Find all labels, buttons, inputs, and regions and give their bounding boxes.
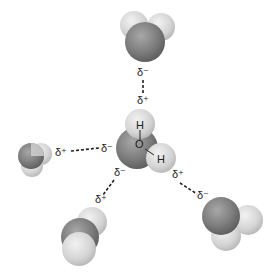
charge-label: δ⁺ bbox=[172, 168, 184, 180]
hydrogen-bond-line bbox=[180, 183, 197, 194]
atom-label-h: H bbox=[157, 153, 165, 165]
water-molecule-bottom-left bbox=[61, 207, 107, 266]
hydrogen-bond-line bbox=[71, 148, 99, 151]
charge-label: δ⁻ bbox=[137, 66, 149, 78]
hydrogen-bonding-diagram: δ⁻ δ⁺ H O H δ⁺ δ⁻ δ⁻ δ⁺ δ⁺ δ⁻ bbox=[0, 0, 274, 279]
water-molecule-bottom-right bbox=[202, 197, 263, 251]
charge-label: δ⁻ bbox=[114, 166, 126, 178]
oxygen-atom bbox=[125, 22, 165, 62]
charge-label: δ⁺ bbox=[137, 94, 149, 106]
charge-label: δ⁻ bbox=[101, 142, 113, 154]
charge-label: δ⁺ bbox=[95, 193, 107, 205]
charge-label: δ⁻ bbox=[197, 189, 209, 201]
hydrogen-atom bbox=[62, 232, 96, 266]
water-molecule-left bbox=[18, 143, 52, 177]
atom-label-o: O bbox=[135, 138, 144, 150]
atom-label-h: H bbox=[136, 119, 144, 131]
water-molecule-central bbox=[116, 109, 176, 173]
charge-label: δ⁺ bbox=[55, 146, 67, 158]
water-molecule-top bbox=[120, 11, 175, 62]
oxygen-atom bbox=[202, 197, 240, 235]
